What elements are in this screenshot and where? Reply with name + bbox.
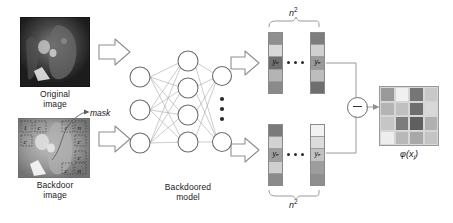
heatmap-cell [380, 87, 395, 102]
heatmap-cell [395, 102, 410, 117]
ellipsis-dots-bottom [287, 153, 304, 156]
network-input-nodes [130, 67, 150, 153]
original-image-caption: Original image [10, 89, 100, 109]
svg-text:n: n [78, 124, 82, 132]
heatmap-cell [424, 102, 439, 117]
original-image-caption-line2: image [10, 99, 100, 109]
heatmap-cell [395, 87, 410, 102]
n-squared-exp-top: 2 [294, 6, 298, 13]
heatmap-cell [409, 131, 424, 146]
original-image-thumbnail [20, 17, 90, 87]
n-squared-label-top: n2 [289, 6, 298, 18]
network-hidden-nodes [178, 51, 198, 152]
model-caption-line1: Backdoored [133, 182, 243, 192]
heatmap-cell [395, 116, 410, 131]
vector-label-bottom-left: yₑ [268, 150, 283, 157]
network-output-nodes [213, 67, 232, 152]
vector-cell [311, 161, 324, 173]
vector-cell [311, 173, 324, 185]
network-output-ellipsis [220, 97, 224, 121]
model-caption-line2: model [133, 192, 243, 202]
output-heatmap-label: φ(xi) [379, 149, 439, 161]
network-node-input-3 [130, 133, 150, 153]
heatmap-cell [380, 131, 395, 146]
network-node-input-2 [130, 100, 150, 120]
network-node-output-2 [213, 133, 232, 152]
backdoor-image-caption-line1: Backdoor [10, 180, 100, 190]
vector-label-top-left: yₑ [268, 58, 283, 65]
arrow-backdoor-to-model [99, 126, 130, 152]
arrow-model-to-bottom-vector [231, 138, 259, 162]
vector-cell [269, 69, 282, 81]
vector-cell [269, 173, 282, 185]
heatmap-cell [395, 131, 410, 146]
n-squared-exp-bottom: 2 [294, 198, 298, 205]
mask-label: mask [90, 108, 110, 118]
svg-text:n: n [78, 167, 82, 175]
network-node-hidden-4 [178, 132, 198, 152]
vector-cell [311, 69, 324, 81]
vector-cell [311, 44, 324, 56]
network-node-hidden-3 [178, 105, 198, 125]
ellipsis-dots-top [287, 61, 304, 64]
brace-top [269, 17, 319, 27]
heatmap-cell [380, 102, 395, 117]
network-node-hidden-1 [178, 51, 198, 71]
backdoor-image-caption-line2: image [10, 190, 100, 200]
vector-cell [269, 81, 282, 93]
vector-cell [269, 125, 282, 136]
vector-label-bottom-right: yₑ [310, 150, 325, 157]
heatmap-cell [424, 131, 439, 146]
vector-cell [269, 161, 282, 173]
neural-network [150, 61, 218, 143]
vector-label-top-right: yₑ [310, 58, 325, 65]
vector-cell [269, 33, 282, 44]
vector-cell [311, 125, 324, 136]
vector-cell [311, 33, 324, 44]
vector-cell [311, 136, 324, 148]
vector-cell [269, 136, 282, 148]
heatmap-cell [409, 102, 424, 117]
output-label-tail: ) [415, 149, 418, 159]
svg-text:1: 1 [24, 124, 28, 132]
heatmap-cell [380, 116, 395, 131]
network-node-input-1 [130, 67, 150, 87]
output-label-head: φ(x [400, 149, 413, 159]
network-node-hidden-2 [178, 78, 198, 98]
heatmap-cell [424, 87, 439, 102]
heatmap-cell [409, 87, 424, 102]
heatmap-cell [424, 116, 439, 131]
backdoor-image-caption: Backdoor image [10, 180, 100, 200]
vector-cell [311, 81, 324, 93]
model-caption: Backdoored model [133, 182, 243, 202]
subtract-operator-node [347, 97, 368, 118]
original-image-caption-line1: Original [10, 89, 100, 99]
arrow-original-to-model [99, 39, 130, 65]
heatmap-cell [409, 116, 424, 131]
diagram-canvas: Original image [0, 0, 453, 223]
output-heatmap [379, 86, 439, 146]
vector-cell [269, 44, 282, 56]
arrow-model-to-top-vector [231, 51, 259, 75]
n-squared-label-bottom: n2 [289, 198, 298, 210]
network-node-output-1 [213, 67, 232, 86]
backdoor-image-thumbnail: 1 c c n c c c c n [18, 118, 90, 178]
